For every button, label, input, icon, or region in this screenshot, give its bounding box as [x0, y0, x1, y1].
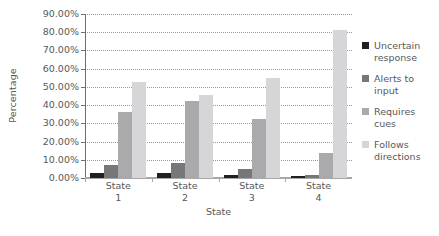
- bar-set: [152, 14, 219, 178]
- bar[interactable]: [238, 169, 252, 178]
- x-axis-tick-label: State3: [219, 180, 286, 203]
- bar-group: [219, 14, 286, 178]
- bar[interactable]: [157, 173, 171, 178]
- bar[interactable]: [90, 173, 104, 178]
- legend-swatch-icon: [362, 75, 369, 82]
- legend-label: Alerts toinput: [374, 73, 414, 96]
- bar[interactable]: [132, 82, 146, 178]
- bar-set: [85, 14, 152, 178]
- bar-set: [219, 14, 286, 178]
- x-axis-tick-label: State1: [85, 180, 152, 203]
- legend-label: Requirescues: [374, 106, 415, 129]
- y-axis-tick-label: 80.00%: [43, 27, 79, 37]
- y-axis-tick-label: 70.00%: [43, 46, 79, 56]
- y-axis-tick-label: 60.00%: [43, 64, 79, 74]
- x-axis-tick-labels: State1State2State3State4: [85, 180, 352, 203]
- legend-swatch-icon: [362, 141, 369, 148]
- y-axis-tick-labels: 0.00%10.00%20.00%30.00%40.00%50.00%60.00…: [22, 14, 82, 178]
- legend: UncertainresponseAlerts toinputRequiresc…: [362, 40, 439, 172]
- bar-group: [152, 14, 219, 178]
- y-axis-tick-label: 20.00%: [43, 137, 79, 147]
- bar-group: [85, 14, 152, 178]
- legend-item[interactable]: Alerts toinput: [362, 73, 439, 96]
- legend-item[interactable]: Followsdirections: [362, 139, 439, 162]
- bar-set: [285, 14, 352, 178]
- bar[interactable]: [291, 176, 305, 178]
- bar[interactable]: [333, 30, 347, 178]
- y-axis-tick-label: 0.00%: [49, 173, 79, 183]
- y-axis-tick-label: 30.00%: [43, 119, 79, 129]
- bar-groups: [85, 14, 352, 178]
- bar[interactable]: [185, 101, 199, 178]
- x-axis-tick-label: State2: [152, 180, 219, 203]
- bar[interactable]: [199, 95, 213, 178]
- bar[interactable]: [118, 112, 132, 179]
- legend-item[interactable]: Uncertainresponse: [362, 40, 439, 63]
- bar[interactable]: [171, 163, 185, 178]
- x-axis-title: State: [85, 206, 352, 217]
- bar[interactable]: [305, 175, 319, 178]
- plot-area: [85, 14, 352, 178]
- bar[interactable]: [104, 165, 118, 178]
- bar[interactable]: [319, 153, 333, 178]
- y-axis-tick-label: 40.00%: [43, 100, 79, 110]
- y-axis-title: Percentage: [0, 0, 24, 190]
- legend-label: Followsdirections: [374, 139, 421, 162]
- bar-group: [285, 14, 352, 178]
- bar-chart: Percentage 0.00%10.00%20.00%30.00%40.00%…: [0, 0, 439, 236]
- y-axis-tick-label: 50.00%: [43, 82, 79, 92]
- legend-label: Uncertainresponse: [374, 40, 420, 63]
- bar[interactable]: [266, 78, 280, 178]
- legend-swatch-icon: [362, 42, 369, 49]
- legend-swatch-icon: [362, 108, 369, 115]
- legend-item[interactable]: Requirescues: [362, 106, 439, 129]
- bar[interactable]: [224, 175, 238, 178]
- y-axis-tick-label: 10.00%: [43, 155, 79, 165]
- bar[interactable]: [252, 119, 266, 178]
- y-axis-tick-label: 90.00%: [43, 9, 79, 19]
- x-axis-tick-label: State4: [285, 180, 352, 203]
- y-axis-title-label: Percentage: [7, 68, 18, 122]
